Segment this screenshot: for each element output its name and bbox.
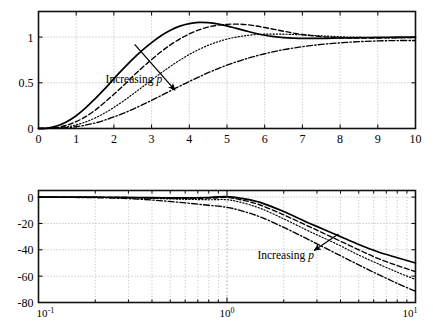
step-xtick-label: 4 [186,132,192,146]
bode-ytick-label: 0 [28,191,34,205]
step-response-svg: 01234567891000.51 Increasing p [0,0,433,160]
step-ytick-label: 0 [28,122,34,136]
figure-container: 01234567891000.51 Increasing p 0-20-40-6… [0,0,433,336]
bode-magnitude-panel: 0-20-40-60-8010-1100101 Increasing p [0,170,433,336]
step-xtick-label: 8 [337,132,343,146]
bode-xtick-label: 101 [403,306,418,319]
step-xtick-label: 9 [375,132,381,146]
step-curve-p2 [39,24,416,128]
bode-magnitude-svg: 0-20-40-60-8010-1100101 Increasing p [0,170,433,336]
step-xtick-label: 5 [224,132,230,146]
bode-xtick-label: 100 [220,306,235,319]
step-annotation-text: Increasing p [106,73,163,86]
step-xtick-label: 0 [36,132,42,146]
step-ytick-label: 1 [28,31,34,45]
step-xtick-label: 6 [262,132,268,146]
step-gridlines [39,12,416,129]
step-xtick-label: 10 [410,132,422,146]
bode-ytick-label: -20 [18,217,34,231]
step-response-panel: 01234567891000.51 Increasing p [0,0,433,160]
bode-xtick-label: 10-1 [37,306,55,319]
step-ytick-label: 0.5 [19,76,34,90]
step-annotation: Increasing p [106,44,175,90]
step-xtick-label: 3 [149,132,155,146]
bode-annotation-text: Increasing p [257,249,314,262]
bode-ytick-label: -80 [18,296,34,310]
bode-ytick-label: -40 [18,243,34,257]
step-xtick-label: 1 [73,132,79,146]
step-xtick-label: 7 [299,132,305,146]
step-xtick-label: 2 [111,132,117,146]
bode-ytick-label: -60 [18,270,34,284]
